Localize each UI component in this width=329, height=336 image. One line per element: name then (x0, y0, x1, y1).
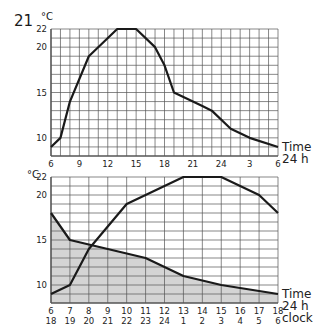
temperature-charts: 1015202269121518212436Time24 h1015202267… (0, 0, 329, 336)
x-tick-label-night: 6 (275, 316, 280, 326)
x-tick-label-night: 21 (102, 316, 113, 326)
x-tick-label-day: 17 (254, 306, 265, 316)
x-tick-label-night: 20 (83, 316, 94, 326)
y-tick-label: 10 (36, 133, 47, 143)
x-tick-label: 6 (275, 159, 280, 169)
x-tick-label-day: 9 (105, 306, 110, 316)
x-tick-label-night: 23 (140, 316, 151, 326)
x-tick-label-day: 14 (197, 306, 208, 316)
x-tick-label-night: 4 (237, 316, 242, 326)
x-tick-label-night: 5 (256, 316, 261, 326)
y-tick-label: 22 (36, 172, 47, 182)
y-tick-label: 20 (36, 190, 47, 200)
y-tick-label: 22 (36, 24, 47, 34)
x-axis-label: 24 h (282, 152, 309, 166)
x-tick-label: 3 (247, 159, 252, 169)
y-tick-label: 15 (36, 88, 47, 98)
x-tick-label-day: 16 (235, 306, 246, 316)
x-tick-label-night: 2 (200, 316, 205, 326)
x-tick-label: 18 (159, 159, 170, 169)
x-tick-label: 21 (187, 159, 198, 169)
y-tick-label: 10 (36, 280, 47, 290)
y-tick-label: 15 (36, 235, 47, 245)
x-tick-label-night: 19 (65, 316, 76, 326)
x-tick-label-day: 8 (86, 306, 91, 316)
x-tick-label-night: 22 (121, 316, 132, 326)
x-tick-label: 15 (131, 159, 142, 169)
x-tick-label: 24 (216, 159, 227, 169)
x-tick-label-day: 13 (178, 306, 189, 316)
x-tick-label: 6 (48, 159, 53, 169)
x-tick-label-day: 10 (121, 306, 132, 316)
x-tick-label-day: 6 (48, 306, 53, 316)
x-tick-label-night: 3 (219, 316, 224, 326)
x-tick-label-day: 12 (159, 306, 170, 316)
x-tick-label-day: 7 (67, 306, 72, 316)
x-tick-label-day: 11 (140, 306, 151, 316)
x-tick-label-night: 1 (181, 316, 186, 326)
x-tick-label-day: 15 (216, 306, 227, 316)
x-tick-label: 12 (102, 159, 113, 169)
x-tick-label-night: 18 (46, 316, 57, 326)
x-tick-label-night: 24 (159, 316, 170, 326)
x-tick-label: 9 (77, 159, 82, 169)
y-tick-label: 20 (36, 42, 47, 52)
x-axis-label: clock (282, 311, 313, 325)
